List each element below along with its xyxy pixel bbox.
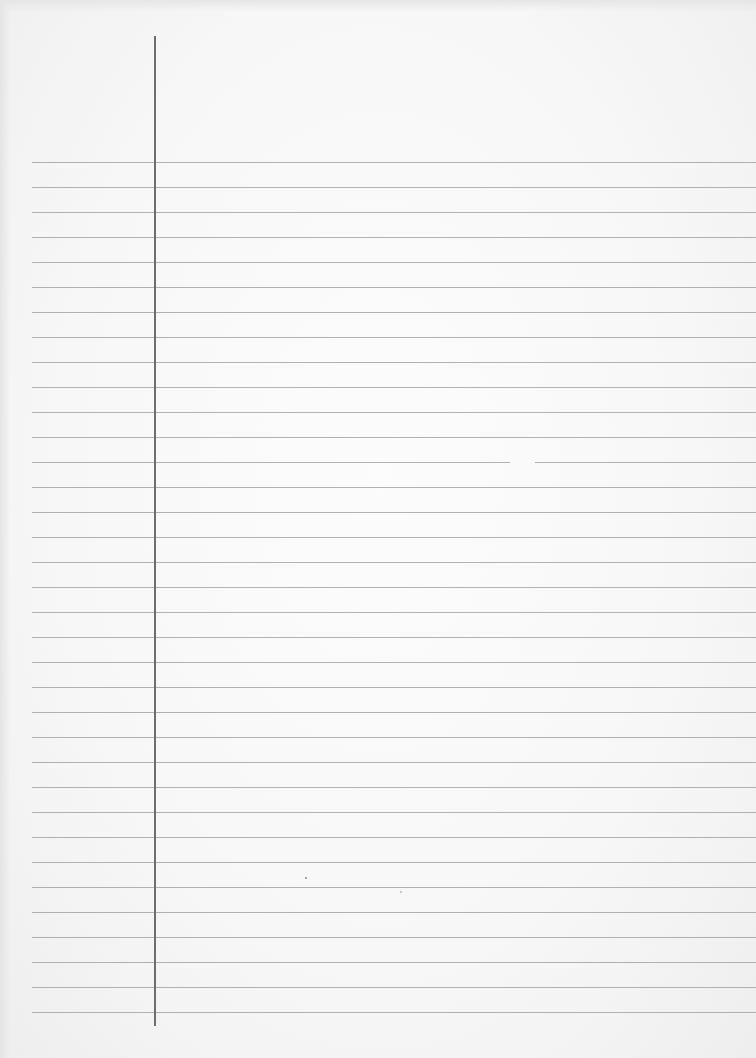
ruled-line bbox=[32, 1012, 756, 1013]
ruled-line bbox=[32, 587, 756, 588]
ruled-line bbox=[32, 562, 756, 563]
ruled-line bbox=[32, 437, 756, 438]
ruled-line bbox=[32, 287, 756, 288]
ruled-paper-sheet bbox=[0, 0, 756, 1058]
ruled-line bbox=[32, 837, 756, 838]
ruled-line bbox=[32, 962, 756, 963]
ruled-line bbox=[32, 512, 756, 513]
ruled-line bbox=[32, 237, 756, 238]
ruled-line bbox=[32, 462, 756, 463]
paper-speck bbox=[400, 891, 402, 893]
ruled-line bbox=[32, 412, 756, 413]
ruled-line bbox=[32, 912, 756, 913]
paper-speck bbox=[305, 877, 307, 879]
ruled-line bbox=[32, 487, 756, 488]
ruled-line bbox=[32, 212, 756, 213]
ruled-line bbox=[32, 362, 756, 363]
margin-line bbox=[154, 36, 156, 1026]
ruled-line bbox=[32, 262, 756, 263]
ruled-line bbox=[32, 787, 756, 788]
ruled-line bbox=[32, 862, 756, 863]
ruled-line bbox=[32, 712, 756, 713]
paper-shadow-top bbox=[0, 0, 756, 12]
ruled-line bbox=[32, 662, 756, 663]
ruled-line bbox=[32, 987, 756, 988]
ruled-line bbox=[32, 762, 756, 763]
ruled-line bbox=[32, 162, 756, 163]
ruled-line bbox=[32, 937, 756, 938]
ruled-line bbox=[32, 312, 756, 313]
ruled-line bbox=[32, 337, 756, 338]
line-gap bbox=[510, 460, 535, 463]
ruled-line bbox=[32, 812, 756, 813]
ruled-line bbox=[32, 387, 756, 388]
paper-shadow-left bbox=[0, 0, 10, 1058]
ruled-line bbox=[32, 687, 756, 688]
ruled-line bbox=[32, 737, 756, 738]
ruled-line bbox=[32, 612, 756, 613]
ruled-line bbox=[32, 887, 756, 888]
ruled-line bbox=[32, 187, 756, 188]
ruled-line bbox=[32, 637, 756, 638]
ruled-line bbox=[32, 537, 756, 538]
